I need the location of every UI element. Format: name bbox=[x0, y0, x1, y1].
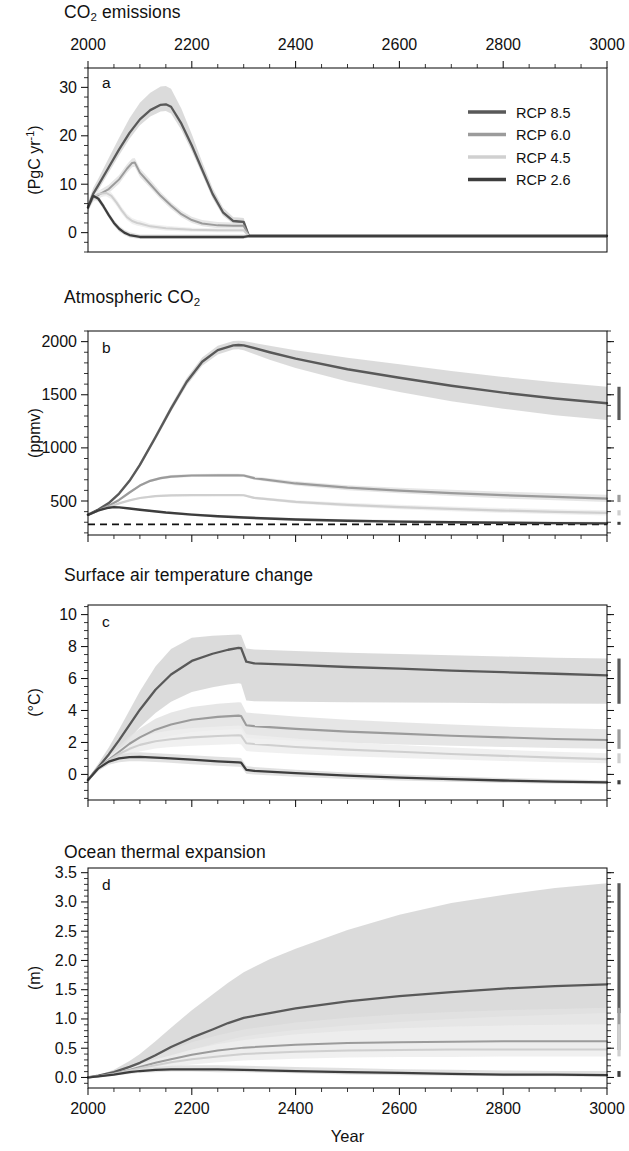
panel-c-plot: 0246810c(°C) bbox=[0, 563, 629, 840]
y-tick-label: 4 bbox=[68, 702, 77, 719]
panel-letter: d bbox=[102, 876, 111, 893]
x-tick-label: 2800 bbox=[485, 36, 521, 53]
y-tick-label: 1500 bbox=[41, 386, 77, 403]
x-tick-label: 2600 bbox=[382, 1100, 418, 1117]
panel-c: Surface air temperature change 0246810c(… bbox=[0, 563, 629, 840]
x-tick-label: 2400 bbox=[278, 36, 314, 53]
y-tick-label: 3.0 bbox=[55, 893, 77, 910]
y-tick-label: 3.5 bbox=[55, 864, 77, 881]
y-tick-label: 2.5 bbox=[55, 923, 77, 940]
y-tick-label: 1.0 bbox=[55, 1010, 77, 1027]
svg-text:(PgC yr-1): (PgC yr-1) bbox=[24, 125, 43, 194]
y-tick-label: 0.5 bbox=[55, 1040, 77, 1057]
panel-a-title: CO2 emissions bbox=[64, 2, 181, 23]
x-tick-label: 2000 bbox=[70, 1100, 106, 1117]
y-tick-label: 1.5 bbox=[55, 981, 77, 998]
legend-label-rcp45: RCP 4.5 bbox=[516, 150, 571, 166]
x-axis-title: Year bbox=[331, 1127, 365, 1145]
panel-a-plot: 0102030200022002400260028003000a(PgC yr-… bbox=[0, 0, 629, 285]
panel-b-title: Atmospheric CO2 bbox=[64, 287, 200, 308]
panel-letter: b bbox=[102, 339, 111, 356]
curve-rcp85 bbox=[88, 104, 607, 236]
y-axis-title: (ppmv) bbox=[26, 408, 43, 458]
y-tick-label: 10 bbox=[59, 606, 77, 623]
y-tick-label: 2.0 bbox=[55, 952, 77, 969]
x-tick-label: 3000 bbox=[589, 36, 625, 53]
x-tick-label: 3000 bbox=[589, 1100, 625, 1117]
y-axis-title: (m) bbox=[26, 966, 43, 990]
y-axis-title: (PgC yr-1) bbox=[24, 125, 43, 194]
legend-label-rcp85: RCP 8.5 bbox=[516, 105, 571, 121]
legend-label-rcp26: RCP 2.6 bbox=[516, 172, 571, 188]
y-tick-label: 1000 bbox=[41, 439, 77, 456]
panel-c-title: Surface air temperature change bbox=[64, 565, 313, 586]
x-tick-label: 2000 bbox=[70, 36, 106, 53]
uncertainty-band-rcp45 bbox=[88, 190, 607, 238]
x-tick-label: 2200 bbox=[174, 1100, 210, 1117]
y-tick-label: 10 bbox=[59, 176, 77, 193]
y-tick-label: 20 bbox=[59, 127, 77, 144]
panel-d: Ocean thermal expansion 0.00.51.01.52.02… bbox=[0, 840, 629, 1151]
svg-text:(m): (m) bbox=[26, 966, 43, 990]
x-tick-label: 2800 bbox=[485, 1100, 521, 1117]
y-tick-label: 500 bbox=[50, 493, 77, 510]
panel-d-plot: 0.00.51.01.52.02.53.03.52000220024002600… bbox=[0, 840, 629, 1151]
x-tick-label: 2200 bbox=[174, 36, 210, 53]
panel-b: Atmospheric CO2 500100015002000b(ppmv) bbox=[0, 285, 629, 563]
panel-letter: a bbox=[102, 74, 111, 91]
y-tick-label: 0 bbox=[68, 224, 77, 241]
figure-rcp-projections: CO2 emissions 01020302000220024002600280… bbox=[0, 0, 629, 1151]
svg-text:(°C): (°C) bbox=[26, 688, 43, 717]
legend-label-rcp60: RCP 6.0 bbox=[516, 127, 571, 143]
y-tick-label: 8 bbox=[68, 638, 77, 655]
y-tick-label: 30 bbox=[59, 79, 77, 96]
y-tick-label: 2000 bbox=[41, 333, 77, 350]
panel-d-title: Ocean thermal expansion bbox=[64, 842, 266, 863]
x-tick-label: 2600 bbox=[382, 36, 418, 53]
x-tick-label: 2400 bbox=[278, 1100, 314, 1117]
svg-text:(ppmv): (ppmv) bbox=[26, 408, 43, 458]
legend: RCP 8.5RCP 6.0RCP 4.5RCP 2.6 bbox=[468, 105, 571, 189]
y-axis-title: (°C) bbox=[26, 688, 43, 717]
panel-letter: c bbox=[102, 613, 110, 630]
uncertainty-band-rcp60 bbox=[88, 158, 607, 237]
panel-b-plot: 500100015002000b(ppmv) bbox=[0, 285, 629, 563]
y-tick-label: 0.0 bbox=[55, 1069, 77, 1086]
y-tick-label: 6 bbox=[68, 670, 77, 687]
y-tick-label: 0 bbox=[68, 766, 77, 783]
y-tick-label: 2 bbox=[68, 734, 77, 751]
panel-a: CO2 emissions 01020302000220024002600280… bbox=[0, 0, 629, 285]
